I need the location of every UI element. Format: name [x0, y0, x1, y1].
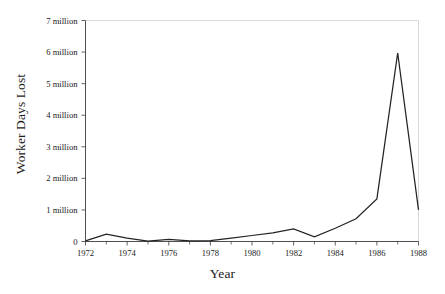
y-tick-label: 3 million [46, 142, 78, 152]
x-tick-label: 1984 [327, 248, 345, 258]
x-tick-label: 1974 [119, 248, 137, 258]
y-tick-label: 1 million [46, 205, 78, 215]
x-tick-label: 1978 [202, 248, 219, 258]
x-tick-label: 1986 [368, 248, 386, 258]
x-tick-label: 1976 [160, 248, 178, 258]
line-chart-plot: 01 million2 million3 million4 million5 m… [0, 0, 445, 294]
x-axis-title: Year [0, 266, 445, 282]
data-series-line [86, 53, 419, 241]
y-tick-label: 7 million [46, 16, 78, 26]
chart-container: Worker Days Lost 01 million2 million3 mi… [0, 0, 445, 294]
plot-frame [86, 21, 419, 242]
y-tick-label: 4 million [46, 110, 78, 120]
x-tick-label: 1980 [243, 248, 260, 258]
x-tick-label: 1988 [410, 248, 427, 258]
y-tick-label: 0 [73, 237, 77, 247]
x-axis-ticks: 197219741976197819801982198419861988 [77, 242, 427, 258]
y-axis-ticks: 01 million2 million3 million4 million5 m… [46, 16, 85, 247]
x-tick-label: 1972 [77, 248, 94, 258]
x-axis-title-text: Year [210, 266, 235, 281]
y-tick-label: 5 million [46, 79, 78, 89]
x-tick-label: 1982 [285, 248, 302, 258]
y-tick-label: 6 million [46, 47, 78, 57]
y-tick-label: 2 million [46, 173, 78, 183]
